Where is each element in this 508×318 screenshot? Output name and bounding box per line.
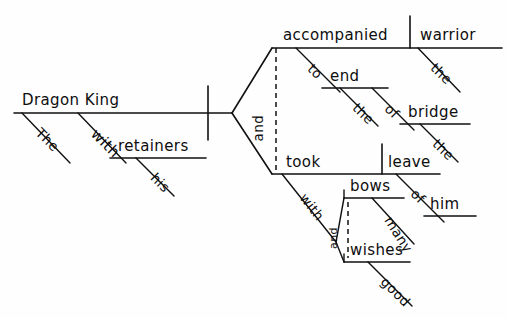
fork-upper-arm xyxy=(232,48,272,113)
word-end: end xyxy=(330,69,359,84)
word-took: took xyxy=(286,155,321,170)
word-warrior: warrior xyxy=(420,28,476,43)
sentence-diagram: Dragon King The with retainers his and a… xyxy=(0,0,508,318)
word-him: him xyxy=(430,197,460,212)
word-and-main: and xyxy=(252,115,266,142)
word-retainers: retainers xyxy=(118,139,189,154)
word-accompanied: accompanied xyxy=(283,28,388,43)
word-wishes: wishes xyxy=(350,243,403,258)
word-leave: leave xyxy=(388,155,431,170)
diagram-lines xyxy=(0,0,508,318)
word-bridge: bridge xyxy=(408,105,459,120)
word-dragon-king: Dragon King xyxy=(22,93,119,108)
word-bows: bows xyxy=(350,179,390,194)
word-and-lower: and xyxy=(328,227,339,249)
